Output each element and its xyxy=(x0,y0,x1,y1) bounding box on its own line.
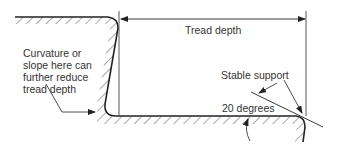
curvature-note-line-3: further reduce xyxy=(23,71,88,83)
curvature-note-line-4: tread depth xyxy=(23,83,76,95)
stable-support-label: Stable support xyxy=(221,69,289,81)
curvature-note-line-2: slope here can xyxy=(23,59,92,71)
tread-depth-label: Tread depth xyxy=(185,24,241,36)
curvature-note-line-1: Curvature or xyxy=(23,47,81,59)
angle-label: 20 degrees xyxy=(222,102,275,114)
